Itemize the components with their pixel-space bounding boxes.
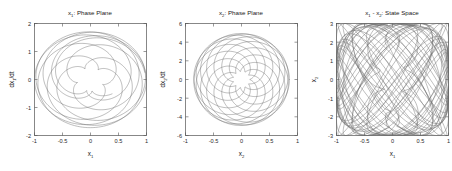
xtick-label: 1 xyxy=(145,138,148,144)
xtick-label: 1 xyxy=(296,138,299,144)
ytick-label: 1 xyxy=(28,49,31,55)
figure-container: x1: Phase Plane xyxy=(0,0,452,171)
panel-state-space: x1 - x2: State Space xyxy=(302,0,452,171)
panel-3-svg: x1 - x2: State Space xyxy=(302,0,452,171)
panel-3-title: x1 - x2: State Space xyxy=(365,9,419,18)
panel-2-ytick-labels: 6 4 2 0 -2 -4 -6 xyxy=(177,21,182,139)
xtick-label: -1 xyxy=(183,138,188,144)
panel-2-title: x2: Phase Plane xyxy=(219,9,264,18)
panel-x1-phase-plane: x1: Phase Plane xyxy=(0,0,150,171)
ytick-label: -2 xyxy=(328,114,333,120)
xtick-label: -0.5 xyxy=(58,138,68,144)
xtick-label: 0 xyxy=(240,138,243,144)
xtick-label: 0.5 xyxy=(417,138,425,144)
xtick-label: -1 xyxy=(334,138,339,144)
panel-2-svg: x2: Phase Plane xyxy=(151,0,301,171)
ytick-label: 0 xyxy=(179,77,182,83)
xtick-label: -1 xyxy=(32,138,37,144)
panel-2-xtick-labels: -1 -0.5 0 0.5 1 xyxy=(183,138,299,144)
ytick-label: 6 xyxy=(179,21,182,27)
panel-2-trajectory xyxy=(194,34,290,126)
panel-2-axes-frame xyxy=(186,24,298,136)
panel-1-ylabel: dx1/dt xyxy=(8,71,17,87)
ytick-label: 0 xyxy=(28,77,31,83)
xtick-label: -0.5 xyxy=(360,138,370,144)
xtick-label: 0 xyxy=(89,138,92,144)
ytick-label: -3 xyxy=(328,133,333,139)
ytick-label: -1 xyxy=(26,105,31,111)
panel-x2-phase-plane: x2: Phase Plane xyxy=(151,0,301,171)
ytick-label: 1 xyxy=(330,58,333,64)
ytick-label: 0 xyxy=(330,77,333,83)
panel-3-trajectory xyxy=(337,24,449,136)
ytick-label: 2 xyxy=(28,21,31,27)
panel-1-xlabel: x1 xyxy=(88,150,94,159)
panel-1-xtick-labels: -1 -0.5 0 0.5 1 xyxy=(32,138,148,144)
panel-1-trajectory xyxy=(35,32,147,128)
ytick-label: -6 xyxy=(177,133,182,139)
panel-3-ytick-labels: 3 2 1 0 -1 -2 -3 xyxy=(328,21,333,139)
xtick-label: 0.5 xyxy=(115,138,123,144)
panel-3-xlabel: x1 xyxy=(390,150,396,159)
panel-1-svg: x1: Phase Plane xyxy=(0,0,150,171)
ytick-label: 3 xyxy=(330,21,333,27)
ytick-label: 2 xyxy=(179,58,182,64)
panel-1-ytick-labels: 2 1 0 -1 -2 xyxy=(26,21,31,139)
xtick-label: 1 xyxy=(447,138,450,144)
ytick-label: -4 xyxy=(177,114,182,120)
panel-2-ticks xyxy=(186,24,298,136)
xtick-label: 0 xyxy=(391,138,394,144)
xtick-label: -0.5 xyxy=(209,138,219,144)
ytick-label: 2 xyxy=(330,40,333,46)
ytick-label: 4 xyxy=(179,40,182,46)
ytick-label: -2 xyxy=(26,133,31,139)
panel-1-title: x1: Phase Plane xyxy=(68,9,113,18)
panel-3-ylabel: x2 xyxy=(310,76,319,82)
ytick-label: -1 xyxy=(328,96,333,102)
panel-2-xlabel: x2 xyxy=(239,150,245,159)
ytick-label: -2 xyxy=(177,96,182,102)
panel-2-ylabel: dx2/dt xyxy=(159,71,168,87)
panel-3-xtick-labels: -1 -0.5 0 0.5 1 xyxy=(334,138,450,144)
xtick-label: 0.5 xyxy=(266,138,274,144)
